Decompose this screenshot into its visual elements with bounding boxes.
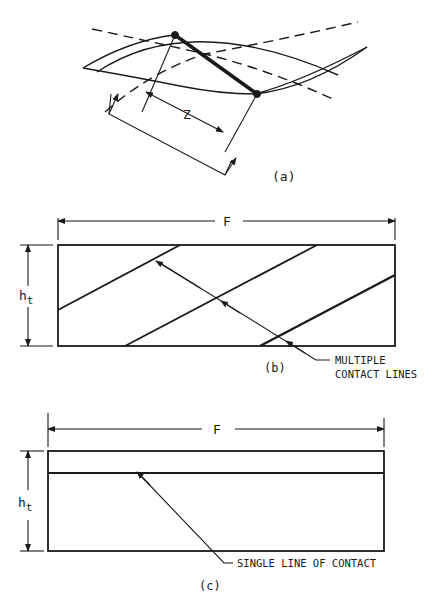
callout-leader-c — [140, 475, 233, 563]
panel-b — [20, 218, 395, 360]
contact-segment — [175, 35, 257, 94]
callout-text-b-line1: MULTIPLE — [335, 354, 386, 366]
ht-label-c: ht — [18, 495, 32, 514]
ht-label-b: ht — [19, 288, 33, 307]
caption-a: (a) — [272, 169, 295, 184]
contact-line-3 — [260, 275, 395, 346]
callout-text-c: SINGLE LINE OF CONTACT — [237, 557, 377, 569]
tooth-face-b — [58, 245, 395, 346]
tooth-arc-upper — [97, 42, 338, 75]
caption-c: (c) — [199, 579, 221, 593]
tooth-curve-right — [255, 47, 367, 94]
contact-line-1 — [58, 245, 180, 310]
gear-contact-diagram: Z (a) F ht MULTIPLE CONTACT LINES (b) — [0, 0, 437, 603]
f-label-b: F — [223, 214, 231, 229]
f-label-c: F — [213, 422, 221, 437]
z-label: Z — [183, 107, 191, 122]
callout-arrow-1 — [156, 261, 200, 288]
section-bracket — [109, 94, 232, 175]
callout-arrow-3 — [286, 341, 305, 353]
callout-arrow-2 — [221, 301, 240, 313]
panel-a — [83, 22, 367, 175]
panel-c — [20, 413, 384, 563]
bracket-arrow-right — [225, 158, 236, 175]
tooth-curve-left — [83, 35, 175, 68]
tooth-face-c — [48, 451, 384, 551]
callout-text-b-line2: CONTACT LINES — [335, 368, 417, 380]
caption-b: (b) — [264, 361, 286, 375]
projection-line-right — [225, 94, 257, 152]
